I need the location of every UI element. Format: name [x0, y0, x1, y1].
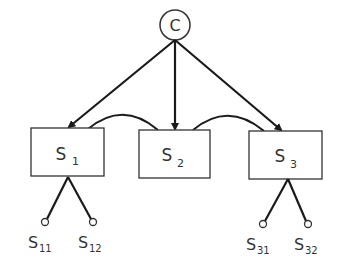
node-s1-sub: 1	[72, 155, 79, 168]
s3-leaf-edges	[265, 179, 306, 221]
svg-text:11: 11	[39, 243, 52, 254]
node-s2-label: S	[162, 145, 173, 165]
node-s1: S 1	[31, 128, 104, 176]
node-s1-label: S	[56, 144, 67, 164]
node-s2-sub: 2	[177, 157, 184, 170]
root-edges	[69, 40, 281, 130]
leaf-s31: S 31	[246, 235, 270, 256]
hierarchy-diagram: C S 1 S 2 S 3 S	[0, 0, 352, 269]
svg-text:S: S	[78, 233, 88, 252]
svg-text:31: 31	[257, 245, 270, 256]
svg-text:S: S	[294, 235, 304, 254]
leaf-s31-node	[260, 221, 267, 228]
root-label: C	[169, 16, 180, 35]
node-s3-label: S	[275, 146, 286, 166]
svg-text:32: 32	[305, 245, 318, 256]
svg-text:S: S	[246, 235, 256, 254]
leaf-s12: S 12	[78, 233, 102, 254]
leaf-s32-node	[305, 221, 312, 228]
svg-text:S: S	[28, 233, 38, 252]
node-s3: S 3	[249, 131, 322, 179]
leaf-s32: S 32	[294, 235, 318, 256]
leaf-s12-node	[90, 219, 97, 226]
s1-leaf-edges	[47, 177, 91, 219]
root-node-c: C	[160, 10, 190, 40]
node-s2: S 2	[139, 130, 210, 178]
leaf-s11: S 11	[28, 233, 52, 254]
leaf-s11-node	[42, 219, 49, 226]
svg-text:12: 12	[89, 243, 102, 254]
node-s3-sub: 3	[290, 158, 297, 171]
arc-s2-s3	[193, 116, 264, 131]
